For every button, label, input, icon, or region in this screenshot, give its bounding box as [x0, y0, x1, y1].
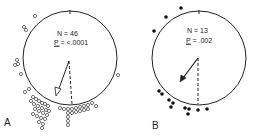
panel-b: N = 13 P = .002 B	[152, 6, 246, 131]
n-text-b: N = 13	[187, 27, 208, 34]
panel-label-b: B	[152, 120, 159, 131]
arrowhead-open-icon	[55, 87, 61, 96]
circle-b	[152, 11, 246, 105]
n-text-a: N = 46	[57, 30, 78, 37]
mean-vector-a	[58, 61, 69, 91]
p-text-a: P = <.0001	[54, 39, 88, 46]
mean-vector-b	[183, 58, 198, 78]
circle-a	[23, 11, 117, 105]
reference-line-a	[69, 61, 72, 104]
data-points-b	[152, 6, 209, 116]
p-text-b: P = .002	[186, 37, 212, 44]
circular-plots-figure: N = 46 P = <.0001 A	[0, 0, 255, 138]
panel-a: N = 46 P = <.0001 A	[4, 10, 120, 130]
panel-label-a: A	[4, 117, 11, 128]
